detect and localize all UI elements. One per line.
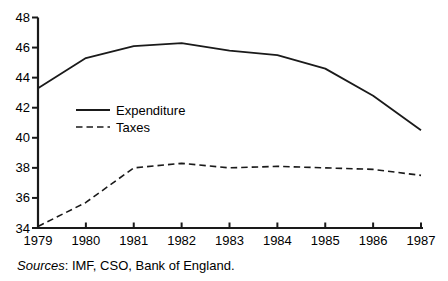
y-tick-label: 48 <box>16 10 30 25</box>
y-tick-label: 40 <box>16 130 30 145</box>
x-tick-label: 1987 <box>407 233 436 248</box>
y-tick-label: 36 <box>16 190 30 205</box>
sources-label: Sources <box>17 258 65 273</box>
x-tick-label: 1985 <box>311 233 340 248</box>
taxes-line <box>38 163 421 226</box>
x-tick-label: 1982 <box>167 233 196 248</box>
x-tick-label: 1983 <box>215 233 244 248</box>
legend: Expenditure Taxes <box>76 103 185 135</box>
legend-taxes-label: Taxes <box>116 120 150 135</box>
expenditure-line <box>38 43 421 130</box>
series-lines <box>38 43 421 226</box>
chart-canvas: 4846444240383634197919801981198219831984… <box>0 0 448 281</box>
y-tick-label: 46 <box>16 40 30 55</box>
y-tick-label: 44 <box>16 70 30 85</box>
x-tick-label: 1986 <box>359 233 388 248</box>
sources-note: Sources: IMF, CSO, Bank of England. <box>17 258 235 273</box>
line-chart-figure: 4846444240383634197919801981198219831984… <box>0 0 448 281</box>
x-tick-label: 1981 <box>119 233 148 248</box>
y-tick-label: 38 <box>16 160 30 175</box>
x-tick-label: 1979 <box>24 233 53 248</box>
x-tick-label: 1984 <box>263 233 292 248</box>
x-tick-label: 1980 <box>71 233 100 248</box>
legend-expenditure-label: Expenditure <box>116 103 185 118</box>
axes: 4846444240383634197919801981198219831984… <box>16 10 436 248</box>
sources-text: : IMF, CSO, Bank of England. <box>65 258 235 273</box>
y-tick-label: 42 <box>16 100 30 115</box>
